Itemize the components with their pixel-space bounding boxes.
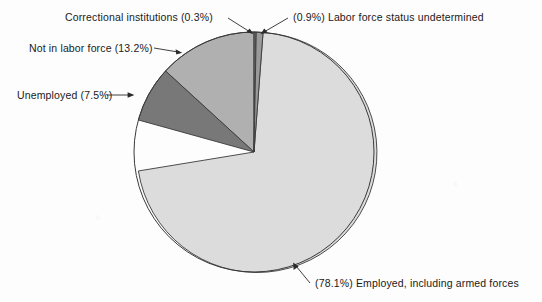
label-labor-force-undetermined: (0.9%) Labor force status undetermined (293, 11, 484, 23)
label-not-in-labor-force: Not in labor force (13.2%) (29, 42, 153, 54)
pie-chart-canvas: Correctional institutions (0.3%) (0.9%) … (0, 0, 542, 302)
arrowhead-not-in-labor-force (176, 49, 183, 54)
leader-line-undetermined (264, 18, 288, 32)
label-employed: (78.1%) Employed, including armed forces (315, 277, 519, 289)
leader-line-correctional (228, 18, 250, 32)
label-correctional-institutions: Correctional institutions (0.3%) (65, 11, 213, 23)
label-unemployed: Unemployed (7.5%) (17, 89, 112, 101)
leader-line-employed (296, 266, 310, 283)
leader-line-not-in-labor-force (154, 48, 178, 52)
arrowhead-unemployed (128, 92, 135, 98)
pie-slices (134, 32, 377, 273)
pie-chart-figure: Correctional institutions (0.3%) (0.9%) … (0, 0, 542, 302)
